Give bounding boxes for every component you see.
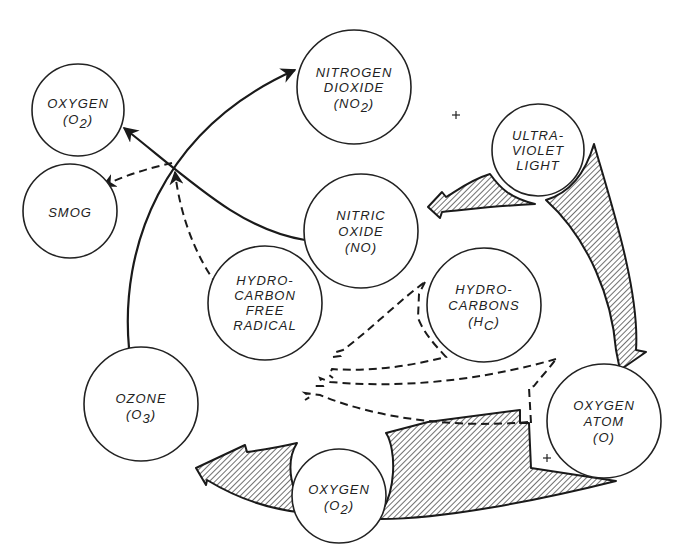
node-hydrocarbons: HYDRO- CARBONS (HC) <box>427 248 541 362</box>
node-ozone: OZONE (O3) <box>84 347 198 461</box>
svg-text:SMOG: SMOG <box>48 205 92 220</box>
svg-text:(NO): (NO) <box>345 240 377 255</box>
svg-text:RADICAL: RADICAL <box>233 318 296 333</box>
node-hydrocarbon-free-radical: HYDRO- CARBON FREE RADICAL <box>208 246 322 360</box>
node-oxygen-top: OXYGEN (O2) <box>32 64 124 156</box>
svg-text:CARBONS: CARBONS <box>448 298 519 313</box>
svg-text:OZONE: OZONE <box>115 391 166 406</box>
plus-sign-bottom <box>543 454 551 462</box>
svg-text:ATOM: ATOM <box>583 414 624 429</box>
node-oxygen-bottom: OXYGEN (O2) <box>292 449 386 543</box>
svg-text:FREE: FREE <box>246 303 285 318</box>
svg-text:CARBON: CARBON <box>234 288 296 303</box>
nitric-oxide-to-oxygen-arrow <box>124 128 305 240</box>
hydrocarbons-to-free-radical-arrow-1 <box>333 282 425 357</box>
svg-text:VIOLET: VIOLET <box>512 143 564 158</box>
node-ultraviolet-light: ULTRA- VIOLET LIGHT <box>492 104 584 196</box>
svg-text:OXYGEN: OXYGEN <box>47 96 109 111</box>
smog-cycle-diagram: OXYGEN (O2) SMOG NITROGEN DIOXIDE (NO2) … <box>0 0 678 549</box>
crossing-to-smog-arrow <box>103 163 172 186</box>
node-nitric-oxide: NITRIC OXIDE (NO) <box>304 174 418 288</box>
svg-text:ULTRA-: ULTRA- <box>512 128 564 143</box>
svg-text:OXYGEN: OXYGEN <box>573 398 635 413</box>
node-oxygen-atom: OXYGEN ATOM (O) <box>547 364 661 478</box>
plus-sign-top <box>452 111 460 119</box>
oxygen-atom-to-free-radical-arrow-1 <box>313 359 556 386</box>
svg-text:HYDRO-: HYDRO- <box>455 282 512 297</box>
svg-text:DIOXIDE: DIOXIDE <box>324 80 384 95</box>
svg-text:(O): (O) <box>593 430 615 445</box>
svg-text:OXIDE: OXIDE <box>338 224 383 239</box>
free-radical-to-crossing-arrow <box>175 172 217 285</box>
svg-text:HYDRO-: HYDRO- <box>236 273 293 288</box>
node-smog: SMOG <box>23 164 117 258</box>
svg-text:LIGHT: LIGHT <box>516 158 559 173</box>
svg-text:NITROGEN: NITROGEN <box>316 65 393 80</box>
svg-text:OXYGEN: OXYGEN <box>308 482 370 497</box>
node-nitrogen-dioxide: NITROGEN DIOXIDE (NO2) <box>297 30 411 144</box>
svg-text:NITRIC: NITRIC <box>336 208 385 223</box>
